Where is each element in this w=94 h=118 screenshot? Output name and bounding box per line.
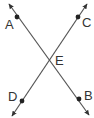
point-d-label: D	[8, 89, 17, 104]
point-a-dot	[15, 15, 20, 20]
point-b-dot	[77, 97, 82, 102]
point-a-label: A	[5, 17, 14, 32]
point-e-label: E	[55, 53, 64, 68]
point-d-dot	[20, 99, 25, 104]
point-c-label: C	[82, 15, 91, 30]
point-c-dot	[76, 15, 81, 20]
point-b-label: B	[84, 88, 93, 103]
intersecting-lines-diagram: ACEDB	[0, 0, 94, 118]
